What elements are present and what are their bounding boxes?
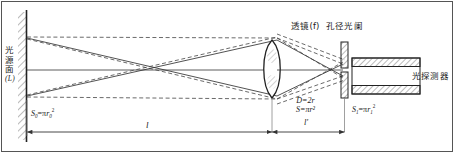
detector-area-formula: S1=πr12 <box>352 104 375 116</box>
lens-label: 透镜(f) <box>291 22 320 32</box>
diagram-canvas <box>0 0 454 153</box>
source-plane-symbol: (L) <box>5 75 15 83</box>
image-side-ray-bundle <box>277 34 345 104</box>
source-area-r-sub: 0 <box>49 113 52 119</box>
detector-area-r-sup: 2 <box>373 103 376 109</box>
source-plane-wall <box>18 10 27 142</box>
source-plane-label: 光 源 面 (L) <box>3 46 17 83</box>
image-distance-label: l' <box>304 118 308 128</box>
lens-area-formula: S=πr² <box>296 106 315 115</box>
solid-ray-bundle <box>27 38 277 96</box>
photodetector-label: 光探测器 <box>412 72 449 82</box>
object-distance-label: l <box>146 120 149 130</box>
optical-diagram-figure: 光 源 面 (L) S0=πr02 l 透镜(f) 孔径光阑 D=2r S=πr… <box>0 0 454 153</box>
detector-area-r-sub: 1 <box>370 109 373 115</box>
source-area-r-sup: 2 <box>52 107 55 113</box>
source-area-formula: S0=πr02 <box>31 108 54 120</box>
lens-element <box>264 10 281 132</box>
aperture-stop <box>341 42 348 132</box>
photodetector-body <box>352 58 420 94</box>
dimension-object-distance <box>27 100 272 136</box>
aperture-stop-label: 孔径光阑 <box>326 22 363 32</box>
lens-spec-formulas: D=2r S=πr² <box>296 97 315 115</box>
